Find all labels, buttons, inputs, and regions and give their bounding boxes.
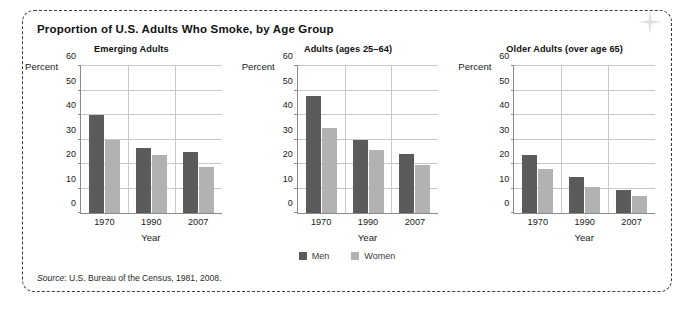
bar-men — [616, 190, 631, 213]
x-tick-label: 1990 — [345, 217, 392, 227]
y-tick-label: 30 — [66, 125, 76, 135]
bar-women — [538, 169, 553, 213]
bar-men — [306, 96, 321, 213]
legend-swatch-women-icon — [351, 252, 359, 260]
bar-women — [322, 128, 337, 213]
bar-men — [89, 115, 104, 213]
bar-men — [522, 155, 537, 213]
source-text: : U.S. Bureau of the Census, 1981, 2008. — [64, 273, 221, 283]
y-tick-label: 50 — [499, 76, 509, 86]
bar-men — [183, 152, 198, 213]
y-tick-label: 50 — [66, 76, 76, 86]
chart-panel-3: Older Adults (over age 65)Percent0102030… — [456, 44, 673, 244]
star-decoration-icon — [637, 9, 663, 35]
y-tick-label: 0 — [504, 198, 509, 208]
y-tick-label: 10 — [283, 174, 293, 184]
bar-group: 1990 — [345, 66, 392, 213]
bar-group: 1990 — [561, 66, 608, 213]
y-axis-label: Percent — [25, 61, 58, 72]
y-tick-label: 20 — [499, 149, 509, 159]
legend-item-women: Women — [351, 251, 395, 261]
legend-item-men: Men — [299, 251, 330, 261]
y-tick-label: 60 — [66, 51, 76, 61]
plot-area: 0102030405060197019902007 — [80, 66, 222, 214]
bar-women — [632, 196, 647, 213]
x-tick-label: 1970 — [514, 217, 561, 227]
legend-label-men: Men — [312, 251, 330, 261]
y-axis-label: Percent — [458, 61, 491, 72]
panel-title: Older Adults (over age 65) — [456, 44, 673, 54]
chart-panels: Emerging AdultsPercent010203040506019701… — [23, 44, 673, 244]
legend-swatch-men-icon — [299, 252, 307, 260]
x-tick-label: 1970 — [81, 217, 128, 227]
source-note: Source: U.S. Bureau of the Census, 1981,… — [37, 273, 221, 283]
bar-women — [152, 155, 167, 213]
bar-groups: 197019902007 — [514, 66, 655, 213]
bar-group: 1970 — [81, 66, 128, 213]
legend-label-women: Women — [364, 251, 395, 261]
y-tick-label: 40 — [283, 100, 293, 110]
y-tick-label: 40 — [66, 100, 76, 110]
bar-men — [353, 140, 368, 213]
y-tick-label: 20 — [66, 149, 76, 159]
x-tick-label: 1970 — [298, 217, 345, 227]
bar-group: 1970 — [514, 66, 561, 213]
x-axis-label: Year — [297, 232, 439, 243]
y-tick-label: 10 — [66, 174, 76, 184]
bar-group: 2007 — [608, 66, 655, 213]
y-tick-label: 20 — [283, 149, 293, 159]
y-tick-label: 50 — [283, 76, 293, 86]
bar-group: 2007 — [391, 66, 438, 213]
bar-groups: 197019902007 — [298, 66, 439, 213]
plot-area: 0102030405060197019902007 — [513, 66, 655, 214]
chart-panel-2: Adults (ages 25–64)Percent01020304050601… — [240, 44, 457, 244]
bar-women — [105, 140, 120, 214]
figure-frame: Proportion of U.S. Adults Who Smoke, by … — [22, 10, 672, 292]
bar-men — [399, 154, 414, 213]
y-tick-label: 60 — [283, 51, 293, 61]
bar-men — [136, 148, 151, 213]
panel-title: Emerging Adults — [23, 44, 240, 54]
bar-group: 2007 — [175, 66, 222, 213]
bar-group: 1970 — [298, 66, 345, 213]
figure-title: Proportion of U.S. Adults Who Smoke, by … — [37, 23, 334, 35]
x-tick-label: 2007 — [608, 217, 655, 227]
source-label: Source — [37, 273, 64, 283]
y-tick-label: 30 — [283, 125, 293, 135]
chart-panel-1: Emerging AdultsPercent010203040506019701… — [23, 44, 240, 244]
y-tick-label: 0 — [288, 198, 293, 208]
chart-legend: Men Women — [23, 251, 671, 261]
x-axis-label: Year — [80, 232, 222, 243]
y-tick-label: 0 — [71, 198, 76, 208]
bar-women — [415, 165, 430, 213]
y-axis-label: Percent — [242, 61, 275, 72]
bar-women — [585, 187, 600, 213]
y-tick-label: 30 — [499, 125, 509, 135]
y-tick-label: 10 — [499, 174, 509, 184]
y-tick-label: 40 — [499, 100, 509, 110]
bar-women — [199, 167, 214, 213]
x-tick-label: 2007 — [391, 217, 438, 227]
x-tick-label: 2007 — [175, 217, 222, 227]
x-axis-label: Year — [513, 232, 655, 243]
panel-title: Adults (ages 25–64) — [240, 44, 457, 54]
x-tick-label: 1990 — [561, 217, 608, 227]
plot-area: 0102030405060197019902007 — [297, 66, 439, 214]
bar-men — [569, 177, 584, 213]
x-tick-label: 1990 — [128, 217, 175, 227]
bar-groups: 197019902007 — [81, 66, 222, 213]
y-tick-label: 60 — [499, 51, 509, 61]
bar-group: 1990 — [128, 66, 175, 213]
bar-women — [369, 150, 384, 213]
